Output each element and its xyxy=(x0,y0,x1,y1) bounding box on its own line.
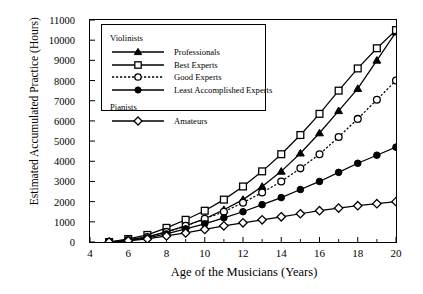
y-tick-label: 0 xyxy=(70,237,75,248)
legend-label: Professionals xyxy=(174,47,220,57)
y-tick-label: 5000 xyxy=(54,136,75,147)
data-point-marker xyxy=(240,208,247,215)
data-point-marker xyxy=(334,204,342,212)
series-least-accomplished-experts xyxy=(106,144,396,242)
y-tick-label: 3000 xyxy=(54,176,75,187)
data-point-marker xyxy=(335,169,342,176)
y-tick-label: 10000 xyxy=(49,35,75,46)
x-tick-label: 20 xyxy=(391,247,402,259)
data-point-marker xyxy=(373,199,381,207)
data-point-marker xyxy=(297,132,304,139)
data-point-marker xyxy=(354,65,361,72)
data-point-marker xyxy=(335,87,342,94)
data-point-marker xyxy=(277,213,285,221)
x-tick-label: 14 xyxy=(276,247,287,259)
data-point-marker xyxy=(373,96,380,103)
data-point-marker xyxy=(393,77,396,84)
data-point-marker xyxy=(354,85,362,92)
legend-group-heading: Violinists xyxy=(110,33,143,43)
data-point-marker xyxy=(374,152,381,159)
legend-symbol xyxy=(110,46,166,58)
legend-symbol xyxy=(110,115,166,127)
data-point-marker xyxy=(354,115,361,122)
y-tick-label: 9000 xyxy=(54,55,75,66)
y-tick-label: 8000 xyxy=(54,75,75,86)
data-point-marker xyxy=(259,201,266,208)
data-point-marker xyxy=(354,201,362,209)
y-tick-label: 4000 xyxy=(54,156,75,167)
x-tick-label: 12 xyxy=(238,247,249,259)
data-point-marker xyxy=(239,219,247,227)
data-point-marker xyxy=(135,86,141,92)
data-point-marker xyxy=(134,117,142,125)
data-point-marker xyxy=(392,197,396,205)
legend-group-heading: Pianists xyxy=(110,102,137,112)
data-point-marker xyxy=(240,199,247,206)
data-point-marker xyxy=(135,61,141,67)
data-point-marker xyxy=(259,189,266,196)
data-point-marker xyxy=(373,45,380,52)
x-tick-label: 16 xyxy=(314,247,325,259)
data-point-marker xyxy=(373,57,381,64)
legend: ViolinistsProfessionalsBest ExpertsGood … xyxy=(101,24,266,111)
legend-symbol xyxy=(110,59,166,71)
data-point-marker xyxy=(258,216,266,224)
y-axis-tick-labels: 0100020003000400050006000700080009000100… xyxy=(0,19,85,243)
data-point-marker xyxy=(316,151,323,158)
data-point-marker xyxy=(297,186,304,193)
legend-symbol xyxy=(110,71,166,83)
data-point-marker xyxy=(220,222,228,230)
data-point-marker xyxy=(354,160,361,167)
data-point-marker xyxy=(316,178,323,185)
data-point-marker xyxy=(393,144,396,151)
x-axis-label: Age of the Musicians (Years) xyxy=(89,265,399,280)
data-point-marker xyxy=(220,196,227,203)
x-tick-label: 10 xyxy=(199,247,210,259)
y-tick-label: 2000 xyxy=(54,196,75,207)
y-tick-label: 11000 xyxy=(49,15,75,26)
data-point-marker xyxy=(297,165,304,172)
y-tick-label: 7000 xyxy=(54,95,75,106)
data-point-marker xyxy=(221,214,228,221)
legend-label: Amateurs xyxy=(174,116,207,126)
legend-label: Least Accomplished Experts xyxy=(174,85,272,95)
data-point-marker xyxy=(315,207,323,215)
x-tick-label: 4 xyxy=(87,247,93,259)
data-point-marker xyxy=(278,194,285,201)
x-axis-tick-labels: 468101214161820 xyxy=(0,247,423,265)
data-point-marker xyxy=(135,74,141,80)
series-amateurs xyxy=(105,197,396,242)
data-point-marker xyxy=(201,225,209,233)
data-point-marker xyxy=(201,207,208,214)
legend-label: Best Experts xyxy=(174,60,218,70)
x-tick-label: 18 xyxy=(352,247,363,259)
x-tick-label: 6 xyxy=(126,247,132,259)
data-point-marker xyxy=(316,110,323,117)
y-tick-label: 1000 xyxy=(54,216,75,227)
legend-symbol xyxy=(110,84,166,96)
y-tick-label: 6000 xyxy=(54,115,75,126)
data-point-marker xyxy=(296,210,304,218)
chart-figure: Estimated Accumulated Practice (Hours) 0… xyxy=(0,0,423,294)
data-point-marker xyxy=(335,134,342,141)
data-point-marker xyxy=(240,183,247,190)
data-point-marker xyxy=(278,151,285,158)
data-point-marker xyxy=(278,178,285,185)
data-point-marker xyxy=(259,168,266,175)
data-point-marker xyxy=(393,27,396,34)
legend-label: Good Experts xyxy=(174,72,222,82)
x-tick-label: 8 xyxy=(164,247,170,259)
